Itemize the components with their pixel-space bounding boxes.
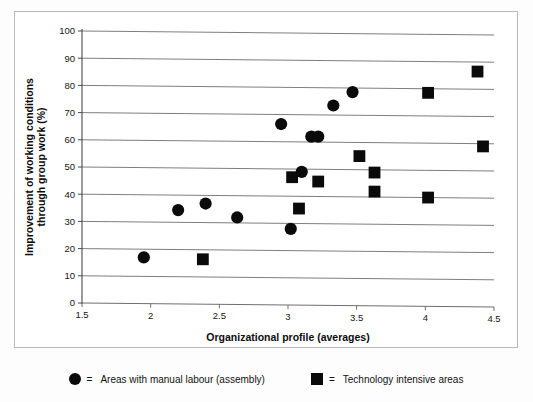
data-point-square-5 (369, 167, 381, 179)
data-point-square-2 (293, 203, 305, 215)
horizontal-gridlines (82, 31, 494, 280)
x-tick-label-3: 3 (285, 311, 290, 322)
legend-equals-sign-1: = (87, 374, 93, 385)
y-axis-tick-labels: 0102030405060708090100 (59, 25, 75, 308)
y-tick-label-80: 80 (64, 80, 75, 91)
data-point-square-4 (354, 150, 366, 162)
legend-item-manual-labour: = Areas with manual labour (assembly) (69, 373, 265, 385)
y-tick-label-100: 100 (59, 25, 75, 36)
x-axis-ticks (82, 303, 494, 311)
x-axis-tick-labels: 1.522.533.544.5 (75, 309, 500, 324)
series-manual-labour (138, 86, 359, 263)
data-point-circle-4 (275, 118, 287, 130)
y-axis-title-line-1: Improvement of working conditions (23, 78, 35, 256)
chart-canvas: 0102030405060708090100 1.522.533.544.5 O… (0, 0, 533, 402)
gridline-60 (82, 140, 494, 144)
x-axis-title: Organizational profile (averages) (206, 331, 369, 343)
series-technology-intensive (197, 66, 489, 266)
square-marker-icon (311, 373, 323, 385)
data-point-circle-1 (172, 204, 184, 216)
gridline-50 (82, 167, 494, 171)
legend-equals-sign-2: = (329, 374, 335, 385)
data-point-circle-3 (231, 211, 243, 223)
gridline-100 (82, 31, 494, 35)
data-point-square-1 (286, 171, 298, 183)
data-point-square-7 (422, 192, 434, 204)
legend-item-technology-intensive: = Technology intensive areas (311, 373, 463, 385)
x-tick-label-4.5: 4.5 (487, 313, 500, 324)
y-axis-title-line-2: through group work (%) (35, 108, 47, 227)
data-point-square-8 (422, 87, 434, 99)
data-point-square-3 (312, 176, 324, 188)
y-tick-label-50: 50 (64, 161, 75, 172)
legend-label-manual-labour: Areas with manual labour (assembly) (100, 374, 265, 385)
data-point-circle-9 (327, 99, 339, 111)
data-point-square-0 (197, 253, 209, 265)
data-point-circle-5 (285, 223, 297, 235)
legend-label-technology-intensive: Technology intensive areas (343, 374, 464, 385)
circle-marker-icon (69, 373, 81, 385)
x-tick-label-4: 4 (423, 312, 428, 323)
data-points (138, 66, 489, 266)
y-tick-label-90: 90 (64, 53, 75, 64)
scatter-plot-figure: 0102030405060708090100 1.522.533.544.5 O… (0, 0, 533, 402)
y-tick-label-40: 40 (64, 189, 75, 200)
x-tick-label-3.5: 3.5 (350, 312, 363, 323)
x-tick-label-1.5: 1.5 (75, 309, 88, 320)
y-tick-label-10: 10 (64, 270, 75, 281)
data-point-square-10 (477, 141, 489, 153)
chart-legend: = Areas with manual labour (assembly) = … (14, 366, 518, 392)
y-tick-label-60: 60 (64, 134, 75, 145)
data-point-circle-10 (346, 86, 358, 98)
data-point-square-6 (369, 186, 381, 198)
y-tick-label-0: 0 (70, 297, 75, 308)
y-tick-label-70: 70 (64, 107, 75, 118)
y-tick-label-20: 20 (64, 243, 75, 254)
gridline-10 (82, 276, 494, 280)
y-axis-ticks (78, 31, 82, 303)
gridline-90 (82, 58, 494, 62)
data-point-circle-8 (312, 131, 324, 143)
data-point-square-9 (472, 66, 484, 78)
x-tick-label-2: 2 (148, 310, 153, 321)
data-point-circle-2 (200, 197, 212, 209)
x-tick-label-2.5: 2.5 (213, 310, 226, 321)
y-tick-label-30: 30 (64, 216, 75, 227)
gridline-70 (82, 113, 494, 117)
data-point-circle-0 (138, 251, 150, 263)
